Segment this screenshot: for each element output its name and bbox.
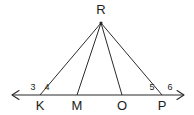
geometry-canvas: R K M O P 3 4 5 6 <box>0 0 194 115</box>
base-point-label-K: K <box>36 98 45 113</box>
base-point-label-M: M <box>72 98 83 113</box>
base-point-label-P: P <box>158 98 167 113</box>
apex-vertex-dot <box>99 21 102 24</box>
segment-RM <box>77 23 101 95</box>
angle-label-5: 5 <box>149 82 154 92</box>
segment-RO <box>101 23 122 95</box>
angle-label-4: 4 <box>44 82 49 92</box>
apex-label-R: R <box>96 2 105 17</box>
ray-group <box>40 23 162 95</box>
angle-label-3: 3 <box>30 82 35 92</box>
base-point-label-O: O <box>117 98 127 113</box>
angle-label-6: 6 <box>167 82 172 92</box>
geometry-figure: R K M O P 3 4 5 6 <box>0 0 194 115</box>
